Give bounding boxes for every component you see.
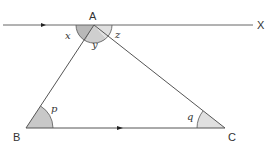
angle-label-z: z	[114, 29, 121, 40]
angle-label-y: y	[91, 39, 98, 50]
vertex-label-B: B	[13, 131, 20, 143]
side-AB	[26, 25, 94, 128]
side-AC	[94, 25, 225, 128]
parallel-arrow-top	[41, 23, 46, 27]
angle-label-p: p	[51, 103, 58, 114]
parallel-arrow-bottom	[117, 126, 123, 130]
angle-label-q: q	[187, 111, 193, 122]
triangle-diagram: A B C X x y z p q	[0, 0, 271, 145]
point-label-X: X	[257, 19, 265, 31]
vertex-label-A: A	[89, 10, 97, 22]
angle-label-x: x	[65, 30, 71, 41]
angle-p-shade	[26, 106, 53, 128]
vertex-label-C: C	[228, 131, 236, 143]
